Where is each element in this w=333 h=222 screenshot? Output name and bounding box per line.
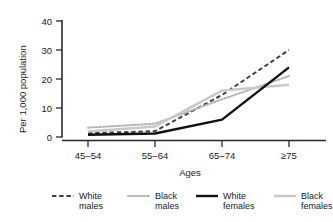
y-tick-label-40: 40 — [41, 16, 52, 27]
x-tick-label-45-54: 45–54 — [75, 150, 101, 161]
x-tick-label-55-64: 55–64 — [142, 150, 168, 161]
legend-label-white-females-line2: females — [223, 201, 255, 211]
line-chart: 40 30 20 10 0 Per 1,000 population 45–54… — [0, 0, 333, 222]
y-tick-label-10: 10 — [41, 103, 52, 114]
y-tick-label-20: 20 — [41, 74, 52, 85]
y-axis-title: Per 1,000 population — [17, 45, 28, 133]
chart-svg: 40 30 20 10 0 Per 1,000 population 45–54… — [0, 0, 333, 222]
legend-label-black-females-line1: Black — [301, 191, 324, 201]
legend-label-white-males-line1: White — [79, 191, 102, 201]
y-tick-label-30: 30 — [41, 45, 52, 56]
x-tick-label-75plus: ≥75 — [281, 150, 297, 161]
legend-label-black-males-line2: males — [155, 201, 180, 211]
legend-label-black-females-line2: females — [301, 201, 333, 211]
x-tick-label-65-74: 65–74 — [209, 150, 235, 161]
x-axis-title: Ages — [179, 167, 201, 178]
y-tick-label-0: 0 — [47, 132, 52, 143]
legend-label-white-females-line1: White — [223, 191, 246, 201]
legend-label-white-males-line2: males — [79, 201, 104, 211]
legend-label-black-males-line1: Black — [155, 191, 178, 201]
